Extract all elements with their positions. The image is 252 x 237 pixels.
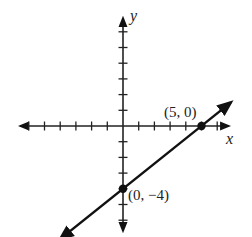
- graph-line: [60, 102, 231, 237]
- point-x-intercept: [197, 122, 205, 130]
- point-label-x-intercept: (5, 0): [164, 104, 197, 121]
- x-axis-label: x: [225, 130, 233, 147]
- point-y-intercept: [119, 185, 127, 193]
- coordinate-graph: y x (5, 0) (0, −4): [0, 0, 252, 237]
- point-label-y-intercept: (0, −4): [128, 187, 169, 204]
- y-axis-label: y: [128, 7, 138, 25]
